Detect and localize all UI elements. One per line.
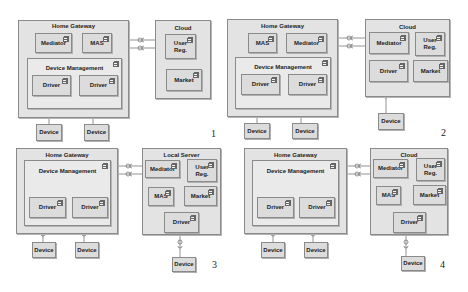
device-node: Device bbox=[84, 124, 109, 141]
user-reg-component: User Reg. bbox=[416, 158, 445, 181]
component-label: Driver bbox=[380, 68, 397, 75]
component-label: Driver bbox=[173, 219, 190, 226]
driver-component: Driver bbox=[29, 197, 66, 218]
device-node: Device bbox=[261, 242, 285, 258]
device-label: Device bbox=[381, 118, 400, 125]
component-icon bbox=[440, 63, 445, 69]
device-label: Device bbox=[403, 260, 422, 267]
mediator-component: Mediator bbox=[145, 160, 180, 178]
node-title: Home Gateway bbox=[228, 23, 337, 29]
node-title: Local Server bbox=[143, 152, 220, 158]
component-icon bbox=[319, 36, 324, 42]
node-title: Cloud bbox=[156, 25, 210, 31]
driver-component: Driver bbox=[32, 75, 71, 96]
component-icon bbox=[100, 200, 105, 206]
device-node: Device bbox=[244, 123, 270, 139]
user-reg-component: User Reg. bbox=[187, 159, 217, 182]
component-label: Driver bbox=[252, 81, 269, 88]
device-label: Device bbox=[77, 247, 96, 254]
component-title: Device Management bbox=[253, 168, 338, 174]
driver-component: Driver bbox=[393, 212, 426, 233]
market-component: Market bbox=[413, 185, 446, 205]
device-label: Device bbox=[306, 247, 325, 254]
mas-component: MAS bbox=[148, 187, 174, 206]
driver-component: Driver bbox=[299, 197, 335, 218]
component-icon bbox=[209, 162, 214, 168]
component-icon bbox=[166, 190, 171, 196]
device-label: Device bbox=[247, 128, 266, 135]
device-node: Device bbox=[378, 113, 404, 130]
driver-component: Driver bbox=[164, 212, 199, 233]
device-node: Device bbox=[401, 256, 425, 271]
device-node: Device bbox=[292, 123, 318, 139]
user-reg-component: User Reg. bbox=[415, 32, 445, 56]
component-icon bbox=[191, 215, 196, 221]
component-icon bbox=[331, 163, 336, 169]
component-icon bbox=[58, 200, 63, 206]
node-title: Home Gateway bbox=[17, 152, 117, 158]
component-title: Device Management bbox=[28, 65, 121, 71]
component-label: Driver bbox=[267, 204, 284, 211]
device-node: Device bbox=[75, 242, 99, 258]
component-icon bbox=[104, 36, 109, 42]
market-component: Market bbox=[413, 60, 448, 82]
component-icon bbox=[393, 189, 398, 195]
component-icon bbox=[438, 188, 443, 194]
panel-number: 2 bbox=[441, 127, 446, 138]
mediator-component: Mediator bbox=[286, 33, 327, 53]
component-icon bbox=[327, 200, 332, 206]
component-label: Driver bbox=[401, 219, 418, 226]
component-icon bbox=[437, 161, 442, 167]
component-icon bbox=[401, 35, 406, 41]
component-label: Market bbox=[421, 68, 440, 75]
component-icon bbox=[110, 78, 115, 84]
component-icon bbox=[400, 162, 405, 168]
component-label: MAS bbox=[90, 40, 103, 47]
device-label: Device bbox=[263, 247, 282, 254]
component-label: Mediator bbox=[376, 40, 401, 47]
mas-component: MAS bbox=[82, 33, 112, 53]
component-icon bbox=[418, 215, 423, 221]
component-icon bbox=[319, 77, 324, 83]
component-icon bbox=[400, 63, 405, 69]
panel-number: 3 bbox=[212, 259, 217, 270]
panel-number: 1 bbox=[211, 128, 216, 139]
component-label: Driver bbox=[299, 81, 316, 88]
device-node: Device bbox=[36, 124, 62, 141]
device-label: Device bbox=[34, 247, 53, 254]
device-label: Device bbox=[174, 261, 193, 268]
driver-component: Driver bbox=[257, 197, 294, 218]
driver-component: Driver bbox=[288, 74, 327, 95]
component-icon bbox=[209, 189, 214, 195]
device-node: Device bbox=[172, 257, 196, 272]
component-icon bbox=[272, 77, 277, 83]
component-icon bbox=[437, 35, 442, 41]
component-label: Driver bbox=[43, 82, 60, 89]
component-icon bbox=[269, 36, 274, 42]
component-icon bbox=[64, 36, 69, 42]
market-component: Market bbox=[184, 186, 217, 206]
mas-component: MAS bbox=[248, 33, 277, 53]
component-icon bbox=[188, 37, 193, 43]
mediator-component: Mediator bbox=[35, 33, 72, 53]
driver-component: Driver bbox=[79, 75, 118, 96]
component-label: Driver bbox=[308, 204, 325, 211]
device-label: Device bbox=[295, 128, 314, 135]
component-icon bbox=[172, 163, 177, 169]
mediator-component: Mediator bbox=[369, 32, 409, 54]
component-icon bbox=[63, 78, 68, 84]
component-icon bbox=[114, 61, 119, 67]
device-label: Device bbox=[39, 129, 58, 136]
component-title: Device Management bbox=[236, 64, 330, 70]
device-label: Device bbox=[87, 129, 106, 136]
component-label: Driver bbox=[81, 204, 98, 211]
node-title: Cloud bbox=[366, 24, 449, 30]
panel-number: 4 bbox=[440, 259, 445, 270]
component-label: Driver bbox=[90, 82, 107, 89]
node-title: Home Gateway bbox=[245, 152, 346, 158]
driver-component: Driver bbox=[72, 197, 108, 218]
component-icon bbox=[323, 60, 328, 66]
mediator-component: Mediator bbox=[373, 159, 408, 178]
device-node: Device bbox=[32, 242, 56, 258]
cloud-node: Cloud bbox=[365, 19, 450, 97]
